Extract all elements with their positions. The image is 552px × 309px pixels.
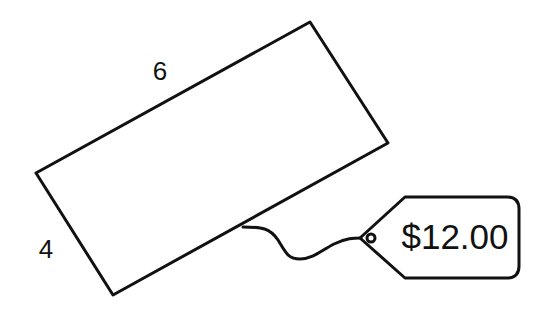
tag-eyelet-hole [367, 234, 375, 242]
tilted-rectangle [36, 22, 388, 295]
length-label: 6 [153, 56, 167, 86]
price-text: $12.00 [401, 217, 508, 256]
width-label: 4 [39, 234, 53, 264]
diagram-svg: 6 4 $12.00 [0, 0, 552, 309]
tag-string [243, 227, 361, 259]
figure-canvas: 6 4 $12.00 [0, 0, 552, 309]
